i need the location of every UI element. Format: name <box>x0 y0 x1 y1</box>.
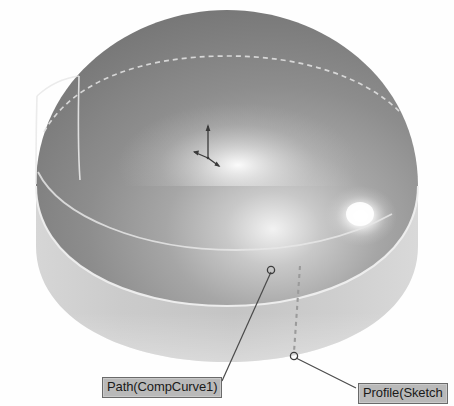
profile-leader-line <box>290 352 356 388</box>
annotation-label-path[interactable]: Path(CompCurve1) <box>102 377 222 398</box>
model-scene <box>0 0 454 406</box>
3d-model-viewport[interactable]: Path(CompCurve1) Profile(Sketch <box>0 0 454 406</box>
annotation-label-profile[interactable]: Profile(Sketch <box>358 383 448 404</box>
